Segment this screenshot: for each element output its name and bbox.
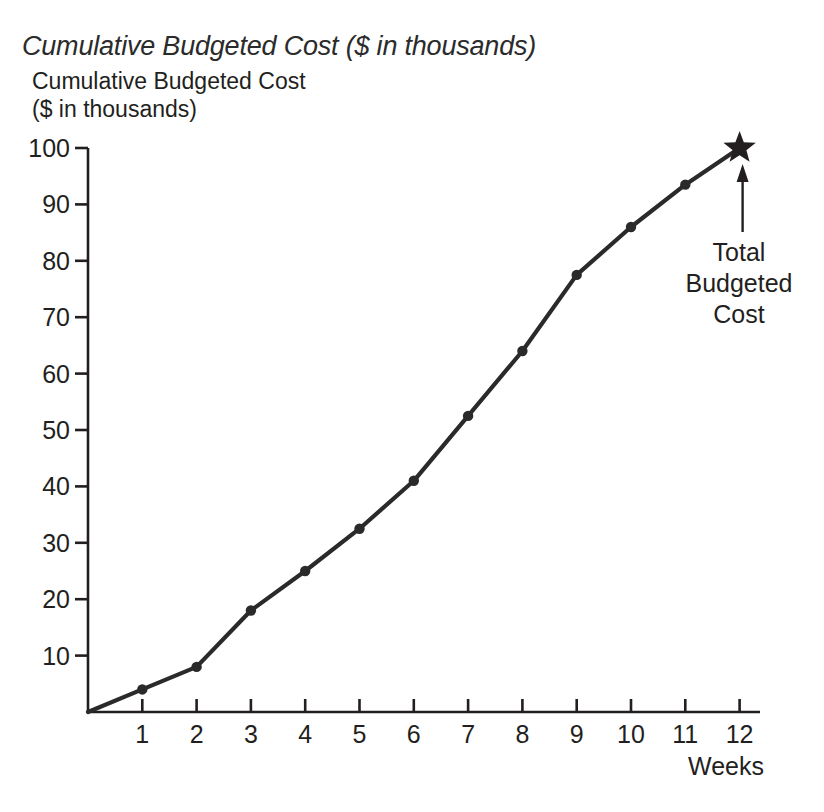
y-axis-tick-label: 60: [0, 359, 70, 388]
y-axis-tick-label: 90: [0, 190, 70, 219]
data-point-marker: [300, 566, 310, 576]
data-point-marker: [246, 605, 256, 615]
x-axis-tick-label: 10: [609, 720, 653, 749]
x-axis-tick-label: 8: [500, 720, 544, 749]
data-line-cumulative-budgeted-cost: [88, 148, 740, 712]
x-axis-tick-label: 11: [663, 720, 707, 749]
y-axis-tick-label: 80: [0, 246, 70, 275]
x-axis-tick-label: 1: [120, 720, 164, 749]
y-axis-tick-label: 10: [0, 641, 70, 670]
y-axis-tick-label: 40: [0, 472, 70, 501]
data-point-marker: [680, 179, 690, 189]
data-point-marker: [463, 411, 473, 421]
data-point-marker: [137, 684, 147, 694]
x-axis-title: Weeks: [688, 752, 764, 781]
annotation-total-budgeted-cost: Total Budgeted Cost: [673, 237, 805, 330]
x-axis-tick-label: 5: [338, 720, 382, 749]
x-axis-tick-label: 7: [446, 720, 490, 749]
data-point-marker: [354, 524, 364, 534]
x-axis-tick-label: 4: [283, 720, 327, 749]
axis-lines: [88, 148, 760, 712]
data-point-marker: [572, 270, 582, 280]
figure-canvas: Cumulative Budgeted Cost ($ in thousands…: [0, 0, 824, 812]
data-point-marker: [409, 476, 419, 486]
y-axis-tick-label: 100: [0, 134, 70, 163]
annotation-arrow-icon: [737, 164, 749, 232]
x-axis-tick-label: 9: [555, 720, 599, 749]
data-point-marker: [191, 662, 201, 672]
y-axis-ticks: [75, 148, 88, 656]
data-point-marker: [517, 346, 527, 356]
chart-plot-area: [0, 0, 824, 812]
data-point-marker: [626, 222, 636, 232]
x-axis-ticks: [142, 699, 739, 712]
data-point-markers: [137, 179, 690, 694]
x-axis-tick-label: 12: [718, 720, 762, 749]
y-axis-tick-label: 70: [0, 303, 70, 332]
y-axis-tick-label: 30: [0, 528, 70, 557]
x-axis-tick-label: 3: [229, 720, 273, 749]
x-axis-tick-label: 6: [392, 720, 436, 749]
y-axis-tick-label: 50: [0, 416, 70, 445]
y-axis-tick-label: 20: [0, 585, 70, 614]
x-axis-tick-label: 2: [175, 720, 219, 749]
